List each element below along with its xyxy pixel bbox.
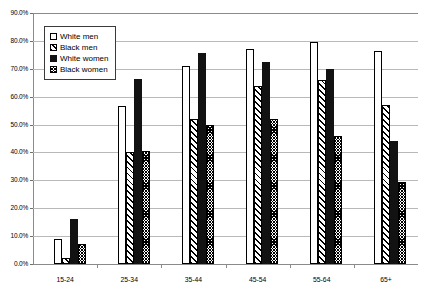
bar-65plus-black-men (382, 105, 390, 264)
bar-15-24-white-women (70, 219, 78, 264)
legend-label-black-men: Black men (60, 43, 97, 52)
chart-legend: White men Black men White women Black wo… (44, 26, 116, 80)
legend-swatch-white-women (50, 55, 57, 62)
x-axis-tick-label: 15-24 (33, 276, 97, 283)
bar-15-24-black-men (62, 258, 70, 264)
bar-65plus-black-women (398, 182, 406, 264)
legend-swatch-black-men (50, 44, 57, 51)
bar-35-44-black-women (206, 125, 214, 264)
bar-45-54-white-men (246, 49, 254, 264)
legend-item-white-women: White women (50, 53, 108, 64)
legend-item-white-men: White men (50, 31, 108, 42)
x-axis-separator (226, 264, 227, 268)
legend-item-black-women: Black women (50, 64, 108, 75)
bar-45-54-white-women (262, 62, 270, 264)
bar-45-54-black-men (254, 86, 262, 264)
bar-25-34-black-men (126, 152, 134, 264)
y-axis-tick-label: 30.0% (11, 176, 28, 183)
bar-65plus-white-women (390, 141, 398, 264)
bar-15-24-black-women (78, 244, 86, 264)
x-axis-tick-label: 65+ (354, 276, 418, 283)
bar-55-64-white-women (326, 69, 334, 264)
bar-35-44-black-men (190, 119, 198, 264)
bar-55-64-black-women (334, 136, 342, 264)
bar-25-34-black-women (142, 151, 150, 264)
bar-45-54-black-women (270, 119, 278, 264)
y-axis-tick-label: 60.0% (11, 93, 28, 100)
x-axis-separator (161, 264, 162, 268)
legend-item-black-men: Black men (50, 42, 108, 53)
y-axis-tick-mark (30, 264, 33, 265)
bar-25-34-white-women (134, 79, 142, 264)
x-axis-separator (97, 264, 98, 268)
x-axis-tick-label: 55-64 (290, 276, 354, 283)
x-axis-separator (290, 264, 291, 268)
y-axis-tick-label: 40.0% (11, 148, 28, 155)
bar-55-64-black-men (318, 80, 326, 264)
y-axis-tick-label: 80.0% (11, 37, 28, 44)
bar-35-44-white-men (182, 66, 190, 264)
legend-label-black-women: Black women (60, 65, 108, 74)
x-axis-tick-label: 25-34 (97, 276, 161, 283)
bar-15-24-white-men (54, 239, 62, 264)
y-axis-tick-label: 0.0% (14, 260, 28, 267)
legend-swatch-white-men (50, 33, 57, 40)
bar-65plus-white-men (374, 51, 382, 264)
bar-25-34-white-men (118, 106, 126, 264)
y-axis-tick-label: 90.0% (11, 9, 28, 16)
legend-swatch-black-women (50, 66, 57, 73)
bar-35-44-white-women (198, 53, 206, 264)
x-axis-tick-label: 35-44 (161, 276, 225, 283)
y-axis-tick-label: 70.0% (11, 65, 28, 72)
y-axis-tick-label: 10.0% (11, 232, 28, 239)
y-axis-tick-label: 50.0% (11, 121, 28, 128)
y-axis-tick-label: 20.0% (11, 204, 28, 211)
x-axis-separator (354, 264, 355, 268)
legend-label-white-women: White women (60, 54, 108, 63)
bar-55-64-white-men (310, 42, 318, 264)
legend-label-white-men: White men (60, 32, 98, 41)
x-axis-tick-label: 45-54 (226, 276, 290, 283)
bar-chart: 0.0%10.0%20.0%30.0%40.0%50.0%60.0%70.0%8… (0, 0, 427, 299)
